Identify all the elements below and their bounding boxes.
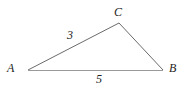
triangle-svg <box>0 0 183 91</box>
segment-ac <box>28 23 119 70</box>
vertex-label-a: A <box>7 62 14 74</box>
side-length-label-ab: 5 <box>96 73 102 85</box>
segment-cb <box>119 23 163 70</box>
triangle-diagram: A B C 3 5 <box>0 0 183 91</box>
vertex-label-b: B <box>169 62 176 74</box>
side-length-label-ac: 3 <box>67 29 73 41</box>
vertex-label-c: C <box>114 6 122 18</box>
